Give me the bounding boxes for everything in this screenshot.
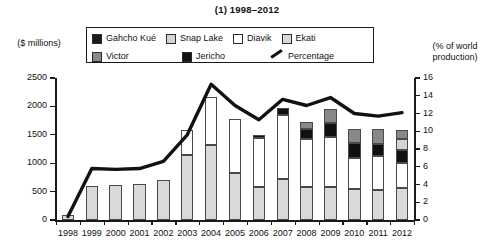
x-tick xyxy=(247,220,248,225)
legend-label-ekati: Ekati xyxy=(296,34,316,43)
legend-swatch-jericho xyxy=(182,52,192,62)
legend-item-diavik: Diavik xyxy=(233,34,272,44)
x-tick xyxy=(80,220,81,225)
left-tick-label: 2000 xyxy=(27,101,47,110)
chart-root: (1) 1998–2012 Gahcho Kué Snap Lake Diavi… xyxy=(0,0,494,252)
legend-label-snap-lake: Snap Lake xyxy=(180,34,223,43)
legend-label-jericho: Jericho xyxy=(196,52,225,61)
plot-area: 05001000150020002500 0246810121416 19981… xyxy=(56,78,414,220)
x-tick xyxy=(175,220,176,225)
left-tick-label: 2500 xyxy=(27,73,47,82)
x-tick xyxy=(390,220,391,225)
right-tick-label: 14 xyxy=(423,91,433,100)
legend-row-2: Victor Jericho Percentage xyxy=(92,49,368,64)
legend-item-gahcho-kue: Gahcho Kué xyxy=(92,34,156,44)
x-tick-label-1998: 1998 xyxy=(56,228,80,238)
x-tick xyxy=(56,220,57,225)
legend-item-snap-lake: Snap Lake xyxy=(166,34,223,44)
x-tick xyxy=(223,220,224,225)
legend-item-ekati: Ekati xyxy=(282,34,316,44)
right-tick-label: 16 xyxy=(423,73,433,82)
right-tick-label: 6 xyxy=(423,162,428,171)
left-tick xyxy=(50,163,55,164)
x-tick-label-2008: 2008 xyxy=(295,228,319,238)
x-tick xyxy=(342,220,343,225)
legend-swatch-victor xyxy=(92,52,102,62)
x-tick-label-2009: 2009 xyxy=(319,228,343,238)
chart-title: (1) 1998–2012 xyxy=(0,4,494,15)
x-tick-label-2002: 2002 xyxy=(151,228,175,238)
left-tick-label: 1500 xyxy=(27,130,47,139)
percentage-line-group xyxy=(56,78,414,220)
x-tick-label-2003: 2003 xyxy=(175,228,199,238)
legend-swatch-snap-lake xyxy=(166,34,176,44)
x-tick-label-2010: 2010 xyxy=(342,228,366,238)
right-tick-label: 2 xyxy=(423,197,428,206)
left-tick xyxy=(50,219,55,220)
x-tick-label-2012: 2012 xyxy=(390,228,414,238)
left-tick-label: 1000 xyxy=(27,158,47,167)
x-tick xyxy=(151,220,152,225)
x-tick xyxy=(199,220,200,225)
right-tick xyxy=(415,166,420,167)
x-tick-label-2000: 2000 xyxy=(104,228,128,238)
legend-item-victor: Victor xyxy=(92,52,178,62)
x-tick-label-2006: 2006 xyxy=(247,228,271,238)
right-tick xyxy=(415,113,420,114)
legend-swatch-diavik xyxy=(233,34,243,44)
right-tick xyxy=(415,219,420,220)
legend-swatch-gahcho-kue xyxy=(92,34,102,44)
x-tick xyxy=(271,220,272,225)
legend-label-gahcho-kue: Gahcho Kué xyxy=(106,34,156,43)
right-tick-label: 4 xyxy=(423,180,428,189)
x-tick-label-2007: 2007 xyxy=(271,228,295,238)
left-axis-caption: ($ millions) xyxy=(8,38,70,49)
x-tick-label-2011: 2011 xyxy=(366,228,390,238)
left-tick xyxy=(50,106,55,107)
legend-line-icon xyxy=(270,51,284,62)
x-tick-label-2001: 2001 xyxy=(128,228,152,238)
legend-label-victor: Victor xyxy=(106,52,129,61)
x-tick xyxy=(414,220,415,225)
right-tick xyxy=(415,148,420,149)
legend-row-1: Gahcho Kué Snap Lake Diavik Ekati xyxy=(92,31,368,46)
x-tick xyxy=(128,220,129,225)
right-tick xyxy=(415,77,420,78)
x-tick-label-2005: 2005 xyxy=(223,228,247,238)
left-tick xyxy=(50,134,55,135)
percentage-line xyxy=(68,84,402,216)
legend-swatch-ekati xyxy=(282,34,292,44)
right-tick-label: 12 xyxy=(423,109,433,118)
x-tick xyxy=(295,220,296,225)
left-tick xyxy=(50,77,55,78)
right-tick xyxy=(415,202,420,203)
x-tick xyxy=(104,220,105,225)
right-tick xyxy=(415,95,420,96)
x-axis-line xyxy=(55,220,415,222)
legend-label-percentage: Percentage xyxy=(288,52,334,61)
legend-item-percentage: Percentage xyxy=(270,51,334,62)
left-tick-label: 500 xyxy=(32,187,47,196)
legend-item-jericho: Jericho xyxy=(182,52,266,62)
right-tick-label: 8 xyxy=(423,144,428,153)
right-tick-label: 0 xyxy=(423,215,428,224)
right-tick xyxy=(415,184,420,185)
right-tick xyxy=(415,131,420,132)
x-tick-label-1999: 1999 xyxy=(80,228,104,238)
x-tick-label-2004: 2004 xyxy=(199,228,223,238)
left-tick-label: 0 xyxy=(42,215,47,224)
legend-label-diavik: Diavik xyxy=(247,34,272,43)
right-tick-label: 10 xyxy=(423,126,433,135)
x-tick xyxy=(319,220,320,225)
left-tick xyxy=(50,191,55,192)
chart-legend: Gahcho Kué Snap Lake Diavik Ekati Victor xyxy=(86,27,374,63)
x-tick xyxy=(366,220,367,225)
right-axis-caption: (% of world production) xyxy=(420,41,490,63)
